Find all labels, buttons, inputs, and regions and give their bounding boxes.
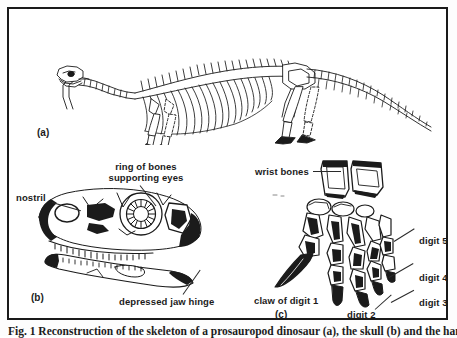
label-digit-4: digit 4 — [419, 272, 448, 284]
panel-a-tag: (a) — [37, 127, 49, 138]
leader-wrist-bones — [313, 171, 341, 172]
label-digit-5: digit 5 — [419, 235, 448, 247]
leader-digit-2 — [375, 294, 392, 309]
leader-depressed-jaw-hinge — [183, 270, 201, 295]
label-ring-of-bones-line1: ring of bones — [104, 161, 188, 173]
label-digit-2: digit 2 — [347, 309, 376, 321]
leader-ring-of-bones — [140, 185, 157, 206]
leader-digit-3 — [391, 290, 414, 303]
label-claw-of-digit-1: claw of digit 1 — [254, 295, 318, 307]
figure-caption: Fig. 1 Reconstruction of the skeleton of… — [8, 325, 457, 338]
panel-c-tag: (c) — [275, 309, 287, 320]
skeleton-illustration — [39, 17, 439, 145]
label-depressed-jaw-hinge: depressed jaw hinge — [119, 296, 214, 308]
panel-b-tag: (b) — [31, 292, 44, 303]
skull-illustration — [31, 169, 216, 294]
leader-digit-5 — [394, 228, 415, 242]
label-wrist-bones: wrist bones — [255, 166, 309, 178]
hand-illustration — [249, 159, 409, 309]
leader-nostril — [52, 202, 81, 211]
label-digit-3: digit 3 — [419, 297, 448, 309]
label-nostril: nostril — [16, 192, 46, 204]
figure-frame: (a) — [7, 7, 448, 320]
label-ring-of-bones-line2: supporting eyes — [104, 172, 188, 184]
leader-digit-4 — [389, 263, 414, 278]
